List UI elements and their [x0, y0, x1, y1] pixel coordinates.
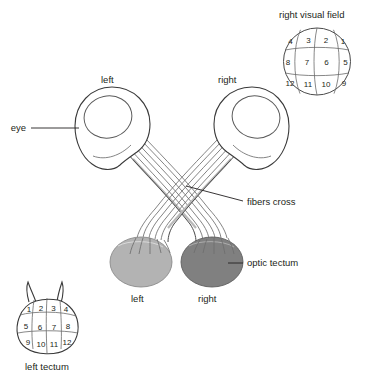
left-tectum-cell-4: 4: [64, 305, 69, 314]
visual-field-cell-4: 4: [288, 37, 293, 46]
callout-optic-tectum-label: optic tectum: [247, 257, 298, 268]
left-tectum-cell-7: 7: [52, 323, 57, 332]
left-tectum-cell-12: 12: [63, 338, 72, 347]
left-tectum-cell-3: 3: [51, 304, 56, 313]
visual-field-cell-12: 12: [286, 79, 295, 88]
left-tectum-cell-5: 5: [24, 322, 29, 331]
visual-field-cell-3: 3: [306, 36, 311, 45]
left-tectum-cell-10: 10: [37, 340, 46, 349]
left-tectum-caption: left tectum: [25, 361, 69, 372]
visual-field-cell-8: 8: [286, 58, 291, 67]
visual-field-cell-2: 2: [324, 36, 329, 45]
optic-tectum-right: [181, 237, 243, 287]
visual-field-cell-9: 9: [342, 79, 347, 88]
eye-label-left: left: [101, 74, 114, 85]
left-tectum-cell-6: 6: [38, 323, 43, 332]
visual-field-cell-10: 10: [322, 80, 331, 89]
eye-label-right: right: [218, 74, 237, 85]
visual-field-cell-11: 11: [304, 80, 313, 89]
left-tectum-cell-9: 9: [26, 338, 31, 347]
left-tectum-cell-8: 8: [66, 322, 71, 331]
tectum-right-body: [181, 237, 243, 287]
right-visual-field-title: right visual field: [279, 9, 344, 20]
right-visual-field-group: right visual field 4 3 2 1 8 7 6 5 12 11…: [279, 9, 351, 95]
left-tectum-cell-2: 2: [39, 304, 44, 313]
optic-nerve-fibers: [126, 139, 238, 242]
callout-eye: eye: [11, 122, 79, 133]
visual-field-cell-6: 6: [324, 58, 329, 67]
tectum-label-left: left: [131, 293, 144, 304]
retinotectal-projection-diagram: right visual field 4 3 2 1 8 7 6 5 12 11…: [0, 0, 365, 379]
left-tectum-cell-11: 11: [50, 340, 59, 349]
visual-field-cell-1: 1: [341, 37, 346, 46]
visual-field-cell-7: 7: [305, 58, 310, 67]
left-tectum-cell-1: 1: [27, 305, 32, 314]
callout-eye-label: eye: [11, 122, 26, 133]
tectum-label-right: right: [198, 293, 217, 304]
eye-right: [214, 87, 289, 169]
callout-fibers-cross-label: fibers cross: [247, 196, 296, 207]
visual-field-cell-5: 5: [343, 58, 348, 67]
eye-left: [75, 87, 150, 169]
left-tectum-map-group: 1 2 3 4 5 6 7 8 9 10 11 12 left tectum: [17, 282, 78, 372]
